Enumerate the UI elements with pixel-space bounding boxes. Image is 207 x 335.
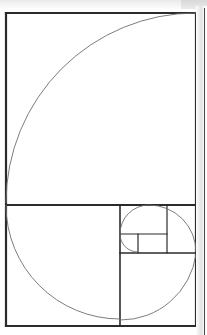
golden-spiral-figure xyxy=(0,0,207,335)
spiral-path xyxy=(6,13,196,320)
square-dividers xyxy=(6,205,196,326)
page-edge-gradient xyxy=(196,6,207,335)
page-edge-rule xyxy=(204,8,205,335)
golden-spiral-arc xyxy=(6,13,196,320)
fibonacci-squares-svg xyxy=(0,0,207,335)
outer-frame xyxy=(6,13,196,326)
